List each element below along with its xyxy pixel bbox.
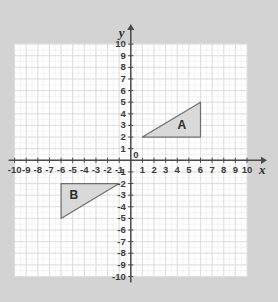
x-tick-label: 3 [163,165,168,175]
y-tick-label: 5 [121,97,126,107]
y-tick-label: -5 [117,214,125,224]
y-axis-label: y [119,26,125,39]
y-tick-label: -10 [112,272,126,282]
y-tick-label: -2 [117,179,125,189]
y-tick-label: 9 [121,51,126,61]
x-tick-label: -6 [57,165,65,175]
y-tick-label: 6 [121,86,126,96]
y-tick-label: 7 [121,74,126,84]
x-tick-label: 10 [242,165,253,175]
x-tick-label: -8 [34,165,42,175]
x-tick-label: 6 [198,165,203,175]
x-tick-label: 9 [233,165,238,175]
y-tick-label: -7 [117,237,125,247]
x-tick-label: -7 [45,165,53,175]
y-tick-label: 4 [121,109,126,119]
y-tick-label: -3 [117,190,125,200]
x-tick-label: -3 [92,165,100,175]
shape-a [142,102,200,137]
y-tick-label: -9 [117,260,125,270]
x-tick-label: -9 [22,165,30,175]
x-axis-label: x [259,163,266,176]
y-tick-label: 2 [121,132,126,142]
y-tick-label: 10 [115,39,126,49]
coordinate-plane-figure: -10-9-8-7-6-5-4-3-2-11234567891010987654… [0,0,278,302]
x-tick-label: 2 [151,165,156,175]
x-tick-label: 5 [186,165,191,175]
x-tick-label: 1 [140,165,145,175]
x-tick-label: -4 [80,165,88,175]
y-tick-label: -4 [117,202,125,212]
plotted-shapes [0,0,278,302]
shape-label-b: B [70,189,79,201]
y-tick-label: 8 [121,63,126,73]
x-tick-label: -5 [68,165,76,175]
y-tick-label: -8 [117,249,125,259]
x-tick-label: 8 [221,165,226,175]
x-tick-label: 4 [175,165,180,175]
x-tick-label: -2 [103,165,111,175]
x-tick-label: -10 [8,165,22,175]
y-tick-label: -6 [117,225,125,235]
origin-label: 0 [133,150,138,160]
y-tick-label: -1 [117,167,125,177]
y-tick-label: 1 [121,144,126,154]
shape-label-a: A [178,119,187,131]
y-tick-label: 3 [121,121,126,131]
x-tick-label: 7 [209,165,214,175]
